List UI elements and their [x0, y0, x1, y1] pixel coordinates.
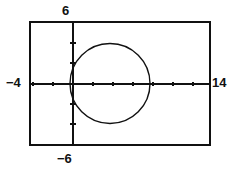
y-max-label: 6 [62, 4, 69, 17]
calculator-graph-screen: 6 −6 −4 14 [0, 0, 235, 174]
graph-canvas [0, 0, 235, 174]
x-max-label: 14 [212, 76, 226, 89]
x-min-label: −4 [6, 76, 21, 89]
y-min-label: −6 [57, 152, 72, 165]
